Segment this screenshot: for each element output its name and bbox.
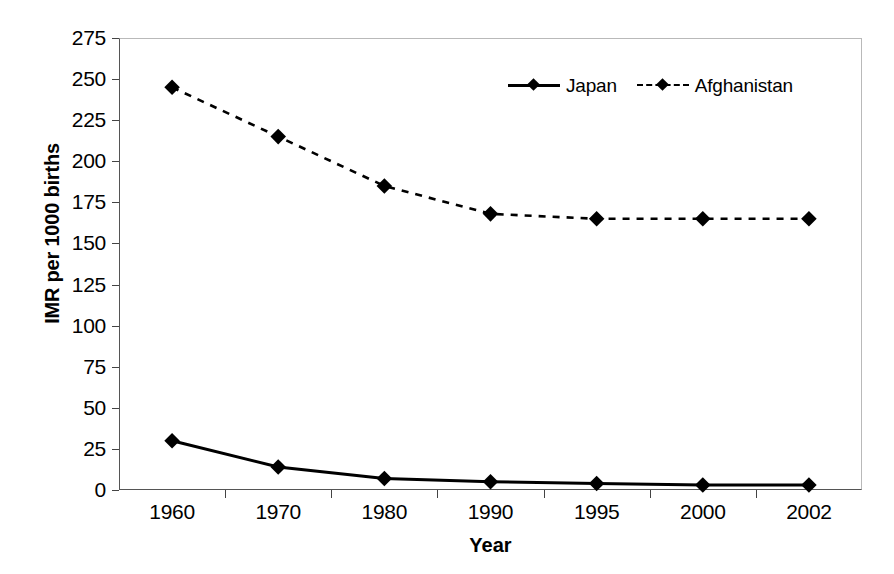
legend-marker-dashed-diamond-icon <box>637 78 689 92</box>
y-axis-title: IMR per 1000 births <box>41 104 64 364</box>
y-tick-mark <box>112 408 119 409</box>
y-tick-label: 250 <box>40 68 106 89</box>
x-tick-mark <box>437 490 438 498</box>
y-tick-label: 50 <box>40 397 106 418</box>
y-tick-mark <box>112 326 119 327</box>
x-tick-mark <box>544 490 545 498</box>
x-tick-label: 1995 <box>544 501 650 523</box>
legend-entry-afghanistan: Afghanistan <box>637 76 793 95</box>
legend-marker-solid-diamond-icon <box>508 78 560 92</box>
x-axis-title: Year <box>119 534 862 557</box>
y-tick-label: 25 <box>40 438 106 459</box>
legend-entry-japan: Japan <box>508 76 617 95</box>
y-tick-label: 275 <box>40 27 106 48</box>
x-tick-label: 2000 <box>650 501 756 523</box>
y-tick-mark <box>112 449 119 450</box>
chart-legend: Japan Afghanistan <box>508 72 793 98</box>
y-tick-mark <box>112 490 119 491</box>
y-tick-mark <box>112 243 119 244</box>
plot-area <box>119 38 862 490</box>
x-tick-label: 1980 <box>331 501 437 523</box>
x-tick-mark <box>225 490 226 498</box>
x-tick-label: 1960 <box>119 501 225 523</box>
legend-label-afghanistan: Afghanistan <box>695 76 793 95</box>
y-tick-mark <box>112 120 119 121</box>
y-tick-mark <box>112 202 119 203</box>
x-tick-label: 2002 <box>756 501 862 523</box>
y-tick-mark <box>112 38 119 39</box>
y-tick-mark <box>112 285 119 286</box>
y-tick-label: 0 <box>40 479 106 500</box>
y-tick-mark <box>112 79 119 80</box>
x-tick-mark <box>756 490 757 498</box>
x-tick-label: 1990 <box>438 501 544 523</box>
x-tick-mark <box>331 490 332 498</box>
chart-figure: 0255075100125150175200225250275 IMR per … <box>0 0 894 574</box>
x-tick-label: 1970 <box>225 501 331 523</box>
legend-label-japan: Japan <box>566 76 617 95</box>
x-tick-mark <box>650 490 651 498</box>
y-tick-mark <box>112 161 119 162</box>
y-tick-mark <box>112 367 119 368</box>
